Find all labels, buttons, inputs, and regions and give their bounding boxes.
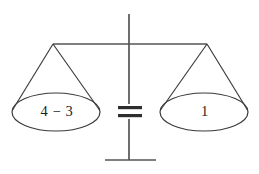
- right-pan-string-inner: [161, 44, 208, 110]
- left-pan-string-inner: [53, 44, 100, 110]
- balance-scale-figure: 4 − 3 1: [0, 0, 259, 174]
- right-pan-string-outer: [207, 44, 248, 110]
- equals-sign-bar-top: [118, 106, 142, 109]
- left-pan-label: 4 − 3: [41, 103, 74, 119]
- right-pan-label: 1: [201, 103, 209, 119]
- left-pan-string-outer: [13, 44, 54, 110]
- equals-sign-bar-bottom: [118, 114, 142, 117]
- balance-scale-diagram: 4 − 3 1: [0, 0, 259, 174]
